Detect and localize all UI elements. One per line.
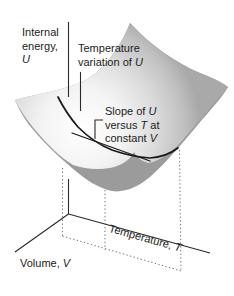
label-internal-energy-line1: Internal bbox=[22, 26, 59, 38]
label-temperature-variation-line1: Temperature bbox=[78, 42, 140, 54]
label-internal-energy: Internal energy, U bbox=[22, 26, 59, 67]
label-temperature-variation-line2: variation of bbox=[78, 56, 135, 68]
label-slope-line2-text: versus bbox=[105, 119, 140, 131]
label-slope-line1-symbol: U bbox=[148, 105, 156, 117]
label-slope-line1-text: Slope of bbox=[105, 105, 148, 117]
label-volume-axis: Volume, V bbox=[20, 257, 70, 271]
label-temperature-variation-symbol: U bbox=[135, 56, 143, 68]
v-axis bbox=[15, 214, 69, 252]
label-slope-line3-symbol: V bbox=[150, 132, 157, 144]
label-slope-of-u: Slope of U versus T at constant V bbox=[105, 105, 159, 146]
label-internal-energy-line2: energy, bbox=[22, 40, 58, 52]
label-volume-axis-symbol: V bbox=[63, 257, 70, 269]
internal-energy-surface-figure: Internal energy, U Temperature variation… bbox=[0, 0, 234, 296]
label-volume-axis-text: Volume, bbox=[20, 257, 63, 269]
label-temperature-variation: Temperature variation of U bbox=[78, 42, 143, 69]
label-internal-energy-symbol: U bbox=[22, 53, 30, 65]
label-slope-line3-text: constant bbox=[105, 132, 150, 144]
label-slope-line2-suffix: at bbox=[147, 119, 159, 131]
